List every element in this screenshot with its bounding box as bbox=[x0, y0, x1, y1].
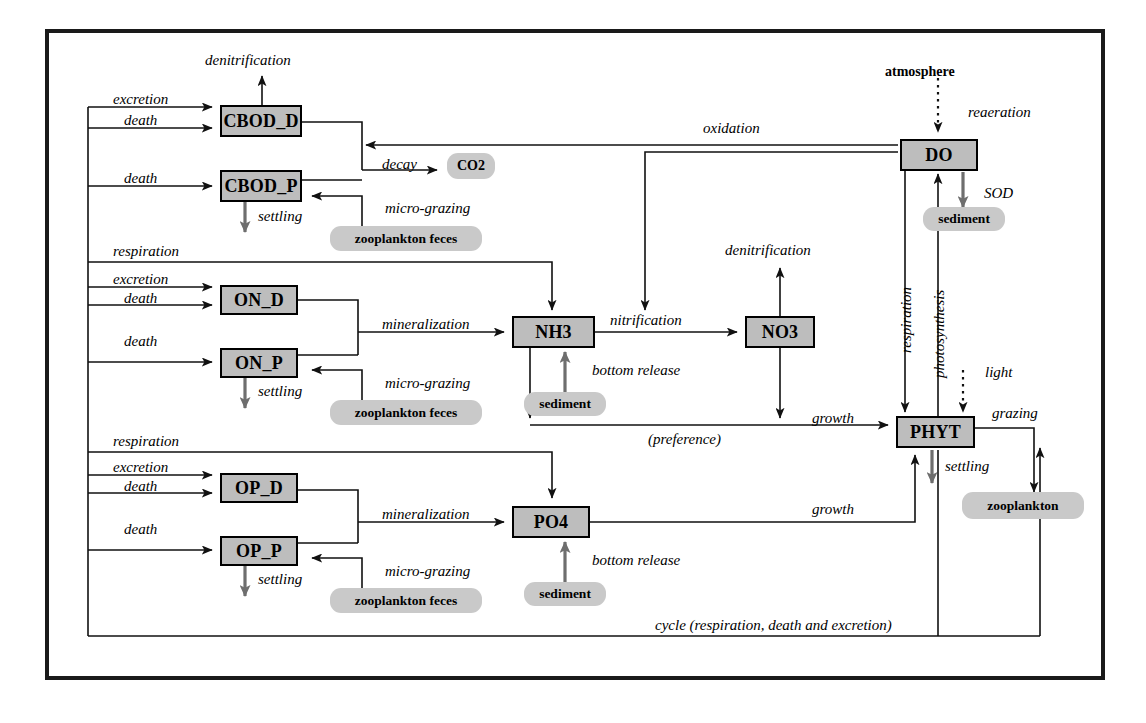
state-box-po4[interactable]: PO4 bbox=[512, 506, 590, 538]
state-box-on-p[interactable]: ON_P bbox=[220, 348, 298, 378]
label-photosynthesis: photosynthesis bbox=[931, 290, 948, 378]
state-box-op-p[interactable]: OP_P bbox=[220, 536, 298, 566]
node-sediment-po4[interactable]: sediment bbox=[524, 582, 606, 606]
state-box-label: ON_D bbox=[234, 291, 284, 309]
node-zooplankton-feces-op[interactable]: zooplankton feces bbox=[330, 588, 482, 613]
label-sod: SOD bbox=[984, 185, 1013, 202]
label-settling-cbod-p: settling bbox=[258, 208, 302, 225]
state-box-label: OP_D bbox=[235, 479, 283, 497]
node-label: sediment bbox=[539, 586, 591, 602]
label-preference: (preference) bbox=[648, 431, 721, 448]
state-box-cbod-p[interactable]: CBOD_P bbox=[220, 170, 302, 202]
state-box-do[interactable]: DO bbox=[900, 139, 978, 171]
label-denitrification-cbod: denitrification bbox=[205, 52, 291, 69]
diagram-canvas: CBOD_D CBOD_P ON_D ON_P OP_D OP_P NH3 NO… bbox=[0, 0, 1146, 723]
node-sediment-do[interactable]: sediment bbox=[923, 207, 1005, 231]
label-settling-phyt: settling bbox=[945, 458, 989, 475]
label-reaeration: reaeration bbox=[968, 104, 1031, 121]
label-micro-grazing-cbod: micro-grazing bbox=[385, 200, 470, 217]
node-label: zooplankton feces bbox=[355, 231, 457, 247]
label-excretion-cbod: excretion bbox=[113, 91, 168, 108]
state-box-label: OP_P bbox=[236, 542, 282, 560]
node-label: CO2 bbox=[457, 158, 485, 174]
label-death-cbod-d: death bbox=[124, 112, 157, 129]
node-label: zooplankton feces bbox=[355, 593, 457, 609]
state-box-op-d[interactable]: OP_D bbox=[220, 473, 298, 503]
label-micro-grazing-on: micro-grazing bbox=[385, 375, 470, 392]
label-death-on-d: death bbox=[124, 290, 157, 307]
label-light: light bbox=[985, 364, 1013, 381]
label-bottom-release-po4: bottom release bbox=[592, 552, 680, 569]
label-mineralization-op: mineralization bbox=[382, 506, 470, 523]
node-label: zooplankton feces bbox=[355, 405, 457, 421]
node-label: sediment bbox=[539, 396, 591, 412]
label-decay: decay bbox=[382, 156, 417, 173]
node-label: atmosphere bbox=[885, 64, 955, 79]
state-box-nh3[interactable]: NH3 bbox=[512, 316, 595, 348]
state-box-cbod-d[interactable]: CBOD_D bbox=[220, 105, 302, 137]
state-box-label: CBOD_P bbox=[224, 177, 297, 195]
label-growth-n: growth bbox=[812, 410, 854, 427]
state-box-label: ON_P bbox=[235, 354, 283, 372]
label-micro-grazing-op: micro-grazing bbox=[385, 563, 470, 580]
state-box-phyt[interactable]: PHYT bbox=[896, 416, 975, 448]
state-box-label: CBOD_D bbox=[223, 112, 298, 130]
node-label: sediment bbox=[938, 211, 990, 227]
node-atmosphere: atmosphere bbox=[885, 64, 955, 80]
state-box-on-d[interactable]: ON_D bbox=[220, 285, 298, 315]
label-respiration-on: respiration bbox=[113, 243, 179, 260]
label-death-op-d: death bbox=[124, 478, 157, 495]
state-box-label: NH3 bbox=[535, 323, 572, 341]
label-settling-op-p: settling bbox=[258, 571, 302, 588]
label-oxidation: oxidation bbox=[703, 120, 760, 137]
node-label: zooplankton bbox=[987, 498, 1058, 514]
state-box-label: PO4 bbox=[534, 513, 569, 531]
state-box-label: DO bbox=[925, 146, 952, 164]
node-zooplankton-feces-on[interactable]: zooplankton feces bbox=[330, 400, 482, 425]
state-box-label: NO3 bbox=[762, 323, 799, 341]
label-settling-on-p: settling bbox=[258, 383, 302, 400]
label-excretion-op: excretion bbox=[113, 459, 168, 476]
node-zooplankton-feces-cbod[interactable]: zooplankton feces bbox=[330, 226, 482, 251]
state-box-label: PHYT bbox=[910, 423, 961, 441]
label-denitrification-no3: denitrification bbox=[725, 242, 811, 259]
label-mineralization-on: mineralization bbox=[382, 316, 470, 333]
label-death-op-p: death bbox=[124, 521, 157, 538]
label-grazing: grazing bbox=[992, 405, 1038, 422]
node-co2[interactable]: CO2 bbox=[447, 153, 495, 179]
label-growth-p: growth bbox=[812, 501, 854, 518]
node-sediment-nh3[interactable]: sediment bbox=[524, 392, 606, 416]
label-respiration-op: respiration bbox=[113, 433, 179, 450]
label-respiration-phyt: respiration bbox=[898, 287, 915, 353]
label-bottom-release-nh3: bottom release bbox=[592, 362, 680, 379]
label-excretion-on: excretion bbox=[113, 271, 168, 288]
label-cycle: cycle (respiration, death and excretion) bbox=[655, 617, 892, 634]
state-box-no3[interactable]: NO3 bbox=[745, 316, 815, 348]
label-death-cbod-p: death bbox=[124, 170, 157, 187]
label-nitrification: nitrification bbox=[610, 312, 682, 329]
node-zooplankton[interactable]: zooplankton bbox=[962, 492, 1084, 519]
label-death-on-p: death bbox=[124, 333, 157, 350]
